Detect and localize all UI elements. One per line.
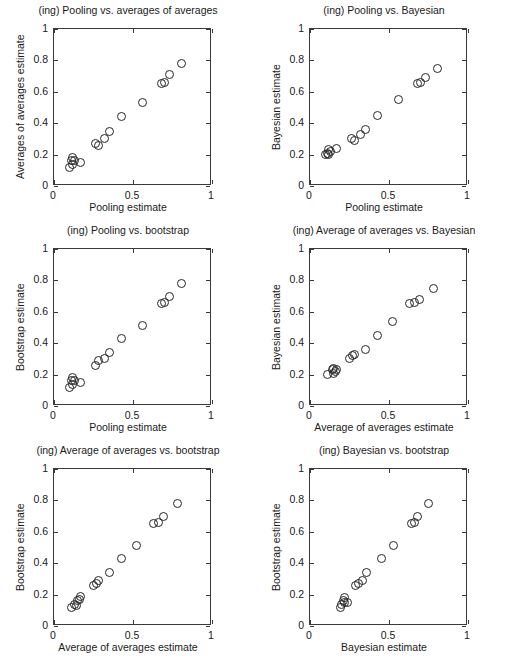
x-tick-label: 0 xyxy=(50,409,56,421)
y-tick-label: 0.2 xyxy=(24,148,48,160)
y-tick xyxy=(54,123,58,124)
y-tick-right xyxy=(206,626,210,627)
x-tick xyxy=(54,620,55,624)
y-tick xyxy=(54,60,58,61)
data-point xyxy=(117,334,126,343)
x-tick-label: 0.5 xyxy=(381,189,396,201)
x-tick-label: 1 xyxy=(464,409,470,421)
y-tick xyxy=(54,469,58,470)
y-tick xyxy=(54,186,58,187)
y-tick xyxy=(310,375,314,376)
data-point xyxy=(361,345,370,354)
y-tick-label: 0 xyxy=(24,179,48,191)
y-tick-label: 1 xyxy=(24,462,48,474)
y-tick xyxy=(310,532,314,533)
data-point xyxy=(138,321,147,330)
x-tick-label: 0.5 xyxy=(381,409,396,421)
x-tick-top xyxy=(468,249,469,253)
subplot-title: (ing) Pooling vs. Bayesian xyxy=(256,4,512,17)
subplot-title: (ing) Average of averages vs. Bayesian xyxy=(256,224,512,237)
y-tick xyxy=(310,249,314,250)
data-point xyxy=(332,365,341,374)
y-tick xyxy=(54,312,58,313)
figure-canvas: (ing) Pooling vs. averages of averages00… xyxy=(0,0,512,659)
y-tick xyxy=(310,500,314,501)
data-point xyxy=(388,317,397,326)
y-tick-label: 0.2 xyxy=(280,368,304,380)
x-tick xyxy=(468,620,469,624)
x-tick-top xyxy=(133,29,134,33)
x-tick-top xyxy=(133,469,134,473)
y-tick-right xyxy=(462,626,466,627)
y-tick-label: 0.8 xyxy=(280,493,304,505)
x-tick-top xyxy=(133,249,134,253)
y-tick xyxy=(310,92,314,93)
data-point xyxy=(159,512,168,521)
data-point xyxy=(105,127,114,136)
y-tick xyxy=(310,595,314,596)
data-point xyxy=(394,95,403,104)
x-tick xyxy=(54,180,55,184)
data-point xyxy=(421,73,430,82)
y-tick-label: 0.8 xyxy=(280,273,304,285)
x-tick-label: 1 xyxy=(208,189,214,201)
x-tick xyxy=(54,400,55,404)
data-point xyxy=(76,592,85,601)
y-tick-label: 0 xyxy=(280,619,304,631)
x-tick-label: 0.5 xyxy=(125,189,140,201)
x-tick-top xyxy=(389,249,390,253)
x-tick xyxy=(133,400,134,404)
data-point xyxy=(433,64,442,73)
y-axis-label: Bayesian estimate xyxy=(270,64,282,150)
x-axis-label: Pooling estimate xyxy=(256,201,512,213)
y-tick-label: 0.2 xyxy=(24,588,48,600)
data-point xyxy=(361,125,370,134)
x-tick xyxy=(310,180,311,184)
x-tick-label: 1 xyxy=(208,629,214,641)
y-tick-label: 0.8 xyxy=(24,53,48,65)
y-tick-label: 0.2 xyxy=(280,148,304,160)
data-point xyxy=(373,331,382,340)
x-tick-label: 0.5 xyxy=(381,629,396,641)
y-tick-label: 0.4 xyxy=(280,556,304,568)
y-tick-label: 0.4 xyxy=(280,116,304,128)
y-tick-right xyxy=(462,92,466,93)
x-axis-label: Average of averages estimate xyxy=(0,641,256,653)
data-point xyxy=(362,568,371,577)
y-tick-label: 0.4 xyxy=(24,556,48,568)
x-tick xyxy=(389,400,390,404)
y-tick xyxy=(54,406,58,407)
y-axis-label: Averages of averages estimate xyxy=(14,34,26,179)
x-tick-top xyxy=(468,29,469,33)
y-tick xyxy=(54,500,58,501)
x-tick-top xyxy=(212,29,213,33)
x-axis-label: Pooling estimate xyxy=(0,421,256,433)
y-tick-label: 1 xyxy=(280,462,304,474)
x-tick xyxy=(468,180,469,184)
y-tick-label: 0.2 xyxy=(24,368,48,380)
y-tick xyxy=(54,532,58,533)
y-tick-label: 0 xyxy=(280,179,304,191)
data-point xyxy=(105,568,114,577)
y-tick-right xyxy=(206,123,210,124)
x-tick-top xyxy=(468,469,469,473)
y-tick-label: 0.6 xyxy=(24,525,48,537)
x-tick xyxy=(212,620,213,624)
y-tick-label: 0.8 xyxy=(280,53,304,65)
y-tick-right xyxy=(462,312,466,313)
y-tick-label: 1 xyxy=(24,22,48,34)
data-point xyxy=(117,554,126,563)
x-tick-label: 0 xyxy=(306,189,312,201)
x-tick xyxy=(468,400,469,404)
data-point xyxy=(389,541,398,550)
y-tick-right xyxy=(206,60,210,61)
y-tick-right xyxy=(462,29,466,30)
y-axis-label: Bootstrap estimate xyxy=(270,503,282,591)
data-point xyxy=(429,284,438,293)
y-tick-right xyxy=(462,280,466,281)
x-tick-label: 0 xyxy=(306,409,312,421)
y-tick-label: 0 xyxy=(24,619,48,631)
y-tick xyxy=(310,155,314,156)
data-point xyxy=(165,70,174,79)
y-tick xyxy=(54,249,58,250)
